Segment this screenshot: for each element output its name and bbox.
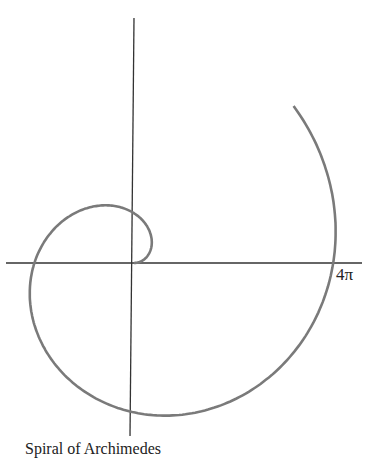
spiral-curve	[30, 106, 336, 416]
axis-label-4pi: 4π	[336, 265, 353, 285]
spiral-plot	[0, 0, 366, 468]
figure: 4π Spiral of Archimedes	[0, 0, 366, 468]
y-axis	[130, 18, 134, 436]
caption: Spiral of Archimedes	[25, 440, 161, 458]
